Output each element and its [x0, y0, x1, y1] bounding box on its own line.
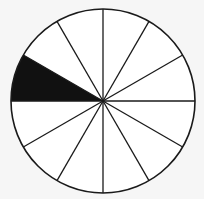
fraction-circle-diagram [0, 0, 204, 199]
circle-graphic [0, 0, 204, 199]
